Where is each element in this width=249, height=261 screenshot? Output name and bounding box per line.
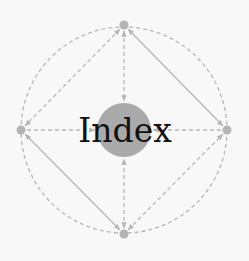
node-left[interactable] [17, 126, 26, 135]
center-node-label: Index [78, 111, 172, 150]
node-right[interactable] [223, 126, 232, 135]
node-bottom[interactable] [120, 230, 129, 239]
index-network-diagram: Index [0, 0, 249, 261]
node-top[interactable] [120, 21, 129, 30]
diagram-canvas: Index [0, 0, 249, 261]
